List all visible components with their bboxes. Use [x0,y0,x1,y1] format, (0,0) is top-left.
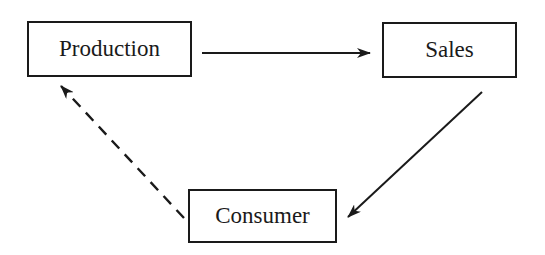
arrow-consumer-to-production-dashed [61,86,184,218]
node-sales: Sales [382,22,517,78]
node-consumer-label: Consumer [215,203,310,229]
flow-diagram: Production Sales Consumer [0,0,545,255]
node-production-label: Production [59,36,160,62]
node-consumer: Consumer [188,189,337,243]
node-sales-label: Sales [425,37,474,63]
arrow-sales-to-consumer [348,92,482,217]
node-production: Production [27,21,192,77]
